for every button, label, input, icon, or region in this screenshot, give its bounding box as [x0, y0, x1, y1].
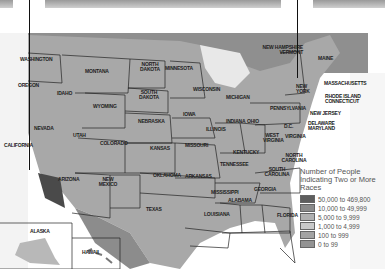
legend-label: 100 to 999 — [318, 232, 349, 239]
label-north-carolina: NORTH CAROLINA — [280, 153, 308, 163]
label-north-dakota: NORTH DAKOTA — [140, 62, 160, 72]
label-illinois: ILLINOIS — [206, 127, 226, 132]
legend-item: 100 to 999 — [300, 231, 380, 239]
label-dc: D.C. — [284, 124, 293, 129]
legend-swatch — [300, 231, 315, 239]
label-florida: FLORIDA — [277, 213, 298, 218]
label-washington: WASHINGTON — [20, 57, 52, 62]
label-hawaii: HAWAII — [82, 250, 99, 255]
label-south-dakota: SOUTH DAKOTA — [138, 90, 160, 100]
legend-label: 1,000 to 4,999 — [318, 223, 360, 230]
label-oklahoma: OKLAHOMA — [153, 173, 181, 178]
header-bar-center — [45, 0, 281, 8]
label-louisiana: LOUISIANA — [204, 212, 230, 217]
label-virginia: VIRGINIA — [285, 134, 306, 139]
label-arkansas: ARKANSAS — [185, 174, 212, 179]
label-alaska: ALASKA — [30, 229, 50, 234]
label-new-jersey: NEW JERSEY — [310, 111, 341, 116]
legend-swatch — [300, 204, 315, 212]
label-ohio: OHIO — [247, 119, 259, 124]
label-iowa: IOWA — [183, 112, 196, 117]
label-georgia: GEORGIA — [254, 187, 276, 192]
legend-swatch — [300, 222, 315, 230]
label-wisconsin: WISCONSIN — [193, 87, 220, 92]
label-ri-ct: RHODE ISLAND CONNECTICUT — [325, 94, 365, 104]
pointer-line-new-york — [297, 0, 298, 78]
label-new-mexico: NEW MEXICO — [98, 177, 118, 187]
label-tennessee: TENNESSEE — [220, 162, 249, 167]
legend-item: 5,000 to 9,999 — [300, 213, 380, 221]
label-alabama: ALABAMA — [228, 198, 252, 203]
label-montana: MONTANA — [85, 69, 109, 74]
label-idaho: IDAHO — [57, 91, 72, 96]
legend-swatch — [300, 195, 315, 203]
label-nebraska: NEBRASKA — [138, 119, 165, 124]
label-pennsylvania: PENNSYLVANIA — [270, 106, 306, 111]
ocean-west — [0, 33, 28, 269]
label-wyoming: WYOMING — [93, 104, 117, 109]
label-minnesota: MINNESOTA — [165, 66, 193, 71]
legend-item: 10,000 to 49,999 — [300, 204, 380, 212]
legend-item: 0 to 99 — [300, 240, 380, 248]
label-west-virginia: WEST VIRGINIA — [263, 133, 281, 143]
label-michigan: MICHIGAN — [226, 95, 250, 100]
pointer-line-california — [29, 0, 30, 170]
legend-item: 50,000 to 469,800 — [300, 195, 380, 203]
legend-label: 5,000 to 9,999 — [318, 214, 360, 221]
label-kansas: KANSAS — [150, 146, 170, 151]
header-bar-right — [313, 0, 385, 8]
label-maine: MAINE — [318, 56, 333, 61]
label-texas: TEXAS — [146, 207, 162, 212]
label-de-md: DELAWARE MARYLAND — [308, 121, 338, 131]
map-legend: Number of People Indicating Two or More … — [300, 168, 380, 249]
legend-label: 0 to 99 — [318, 241, 338, 248]
header-bar-left — [0, 0, 13, 8]
label-mississippi: MISSISSIPPI — [211, 190, 239, 195]
legend-label: 10,000 to 49,999 — [318, 205, 367, 212]
legend-label: 50,000 to 469,800 — [318, 196, 370, 203]
label-kentucky: KENTUCKY — [233, 150, 259, 155]
label-arizona: ARIZONA — [58, 177, 79, 182]
label-utah: UTAH — [73, 133, 86, 138]
label-colorado: COLORADO — [100, 141, 128, 146]
label-nevada: NEVADA — [34, 126, 54, 131]
label-new-york: NEW YORK — [296, 84, 308, 94]
label-south-carolina: SOUTH CAROLINA — [263, 167, 291, 177]
label-indiana: INDIANA — [226, 119, 245, 124]
legend-swatch — [300, 240, 315, 248]
label-massachusetts: MASSACHUSETTS — [324, 81, 366, 86]
legend-swatch — [300, 213, 315, 221]
legend-item: 1,000 to 4,999 — [300, 222, 380, 230]
legend-title: Number of People Indicating Two or More … — [300, 168, 380, 192]
label-missouri: MISSOURI — [185, 143, 208, 148]
